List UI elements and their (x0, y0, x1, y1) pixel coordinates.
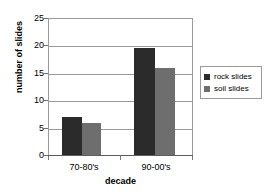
legend-item-soil-slides: soil slides (204, 83, 258, 94)
legend-swatch-icon-soil-slides (204, 86, 210, 92)
bars-layer (48, 18, 193, 156)
bar-chart: number of slides 25 20 15 10 5 0 70-80's… (0, 0, 266, 192)
bar-rock-slides-70-80s (62, 117, 82, 156)
y-tick-label: 5 (24, 124, 44, 133)
x-axis-title: decade (48, 176, 193, 186)
legend-label-rock-slides: rock slides (214, 72, 252, 81)
y-tick-label: 0 (24, 151, 44, 160)
x-tick-label-90-00s: 90-00's (126, 162, 186, 172)
x-axis-tickmark (192, 156, 193, 160)
chart-legend: rock slides soil slides (200, 66, 262, 99)
legend-item-rock-slides: rock slides (204, 71, 258, 82)
legend-swatch-icon-rock-slides (204, 74, 210, 80)
y-tick-label: 10 (24, 96, 44, 105)
y-tick-label: 20 (24, 41, 44, 50)
bar-soil-slides-70-80s (82, 123, 101, 156)
bar-soil-slides-90-00s (155, 68, 175, 156)
y-axis-tick-labels: 25 20 15 10 5 0 (22, 0, 44, 192)
y-tick-label: 25 (24, 14, 44, 23)
x-axis-tickmark (120, 156, 121, 160)
y-tick-label: 15 (24, 69, 44, 78)
bar-rock-slides-90-00s (134, 48, 155, 156)
x-tick-label-70-80s: 70-80's (54, 162, 114, 172)
x-axis-tickmark (48, 156, 49, 160)
legend-label-soil-slides: soil slides (214, 84, 249, 93)
